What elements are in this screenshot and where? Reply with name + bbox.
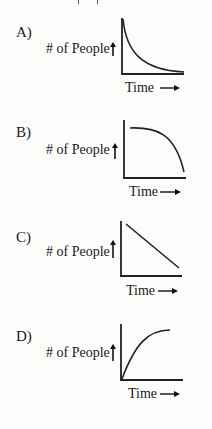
up-arrow-icon (110, 240, 116, 258)
option-b[interactable]: B) # of People Time (0, 102, 212, 207)
up-arrow-icon (110, 42, 116, 56)
chart-d (0, 319, 212, 429)
curve (123, 19, 184, 72)
x-axis-label: Time (128, 386, 157, 402)
option-c[interactable]: C) # of People Time (0, 210, 212, 315)
up-arrow-icon (110, 344, 116, 361)
right-arrow-icon (160, 391, 180, 397)
right-arrow-icon (160, 85, 180, 91)
axes (120, 221, 182, 276)
chart-c (0, 210, 212, 315)
right-arrow-icon (160, 189, 181, 195)
curve (122, 330, 170, 379)
x-axis-label: Time (126, 283, 155, 299)
curve (130, 128, 184, 172)
option-d[interactable]: D) # of People Time (0, 319, 212, 424)
x-axis-label: Time (129, 184, 158, 200)
chart-a (0, 0, 212, 105)
chart-b (0, 102, 212, 207)
x-axis-label: Time (125, 80, 154, 96)
axes (120, 324, 183, 380)
curve (126, 224, 179, 268)
up-arrow-icon (112, 143, 118, 159)
right-arrow-icon (158, 288, 178, 294)
option-a[interactable]: A) # of People Time (0, 0, 212, 105)
